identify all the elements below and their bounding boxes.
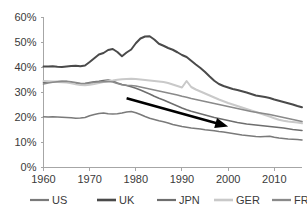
series-line-ger [44,79,303,124]
x-axis-tick-label: 2010 [262,173,286,185]
series-line-uk [44,36,303,107]
y-axis-tick-label: 30% [14,86,36,98]
x-axis-tick-label: 1980 [124,173,148,185]
y-axis-tick-labels: 0%10%20%30%40%50%60% [14,11,36,173]
series-line-fra [44,81,303,121]
y-axis-tick-label: 40% [14,61,36,73]
y-axis-tick-label: 20% [14,111,36,123]
chart-legend: USUKJPNGERFRA [30,194,307,206]
legend-label-fra[interactable]: FRA [294,194,307,206]
x-axis-tick-label: 1990 [170,173,194,185]
line-chart: 0%10%20%30%40%50%60% 1960197019801990200… [0,0,307,215]
x-axis-tick-labels: 196019701980199020002010 [31,173,286,185]
legend-label-uk[interactable]: UK [119,194,135,206]
legend-label-jpn[interactable]: JPN [179,194,200,206]
data-series-group [44,36,303,140]
chart-container: 0%10%20%30%40%50%60% 1960197019801990200… [0,0,307,215]
series-line-jpn [44,80,303,131]
x-axis-tick-label: 1960 [31,173,55,185]
x-axis-tick-label: 2000 [216,173,240,185]
x-axis-tick-label: 1970 [77,173,101,185]
y-axis-tick-label: 50% [14,36,36,48]
y-axis-tick-label: 60% [14,11,36,23]
axis-tick-marks [41,17,275,171]
legend-label-ger[interactable]: GER [236,194,260,206]
y-axis-tick-label: 0% [21,161,37,173]
y-axis-tick-label: 10% [14,136,36,148]
legend-label-us[interactable]: US [52,194,67,206]
